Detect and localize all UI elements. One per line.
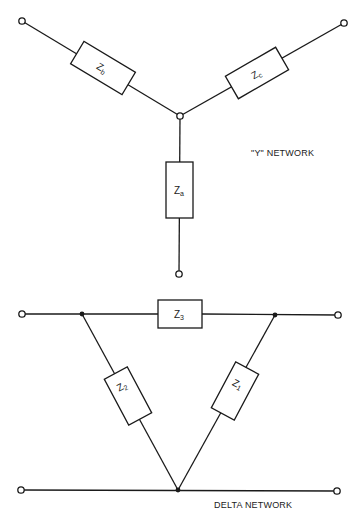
terminal-bottom-left [18, 487, 24, 493]
terminal-bottom-right [334, 488, 340, 494]
delta-network: Z3 Z2 Z1 DELTA NETWORK [18, 300, 341, 510]
junction-top-right [273, 313, 278, 318]
network-diagram: Zb Zc Za "Y" NETWORK Z3 [0, 0, 361, 527]
delta-network-caption: DELTA NETWORK [214, 500, 292, 510]
wire-top-right [202, 314, 338, 315]
terminal-top-right [335, 312, 341, 318]
impedance-z3: Z3 [158, 300, 202, 328]
y-network: Zb Zc Za "Y" NETWORK [19, 18, 347, 277]
impedance-zb: Zb [71, 41, 136, 94]
junction-bottom [176, 488, 181, 493]
terminal-top-left [19, 18, 25, 24]
y-network-caption: "Y" NETWORK [251, 148, 314, 158]
impedance-z1: Z1 [211, 362, 258, 420]
terminal-bottom [176, 271, 182, 277]
terminal-top-left [19, 311, 25, 317]
center-node [177, 113, 183, 119]
impedance-z2: Z2 [104, 367, 151, 425]
junction-top-left [80, 312, 85, 317]
impedance-zc: Zc [225, 47, 288, 99]
impedance-za: Za [166, 162, 193, 218]
terminal-top-right [341, 20, 347, 26]
